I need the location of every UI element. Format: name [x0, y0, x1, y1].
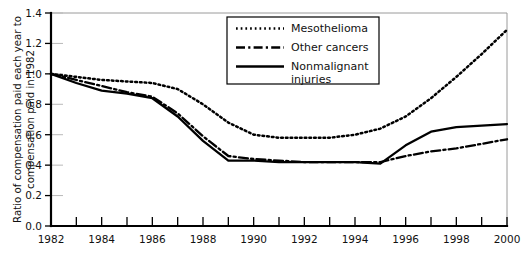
x-tick-label: 1990 [240, 233, 267, 245]
legend-label: Other cancers [291, 41, 369, 54]
y-tick-label: 1.2 [25, 37, 42, 49]
y-tick-label: 1.4 [25, 7, 42, 19]
x-tick-label: 1988 [190, 233, 217, 245]
x-tick-label: 1982 [38, 233, 65, 245]
y-axis-title-line-2: compensation paid in 1982 [25, 50, 36, 189]
chart-legend: MesotheliomaOther cancersNonmalignantinj… [227, 17, 379, 86]
x-tick-label: 2000 [494, 233, 521, 245]
x-tick-label: 1986 [139, 233, 166, 245]
y-tick-label: 0.2 [25, 189, 42, 201]
x-tick-label: 1994 [342, 233, 369, 245]
y-axis-title-line-1: Ratio of compensation paid each year to [12, 16, 23, 223]
legend-label: Nonmalignant [291, 60, 369, 73]
y-tick-label: 0.0 [25, 220, 42, 232]
x-tick-label: 1998 [443, 233, 470, 245]
x-tick-label: 1996 [392, 233, 419, 245]
legend-label-continued: injuries [291, 73, 331, 86]
ratio-of-compensation-line-chart: 0.00.20.40.60.81.01.21.4 198219841986198… [0, 0, 522, 267]
x-tick-label: 1984 [88, 233, 115, 245]
x-tick-label: 1992 [291, 233, 318, 245]
legend-label: Mesothelioma [291, 22, 368, 35]
chart-container: 0.00.20.40.60.81.01.21.4 198219841986198… [0, 0, 522, 267]
